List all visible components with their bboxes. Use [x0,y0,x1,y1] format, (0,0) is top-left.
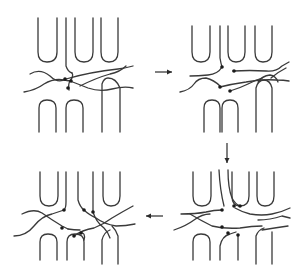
arrow-right-icon [155,70,172,75]
strand-line [256,80,272,132]
junction-dot [232,69,236,73]
junction-dot [69,79,73,83]
rearrangement-diagram [0,0,303,278]
strand-line [192,26,210,62]
strand-line [181,210,222,214]
strand-line [64,172,66,210]
panels-group [14,18,290,264]
junction-dot [238,204,242,208]
strand-line [40,234,57,260]
strand-line [180,78,220,92]
junction-dot [91,210,95,214]
strand-line [232,172,249,206]
strand-line [255,26,272,62]
strand-line [262,226,288,230]
panel-top-left [24,18,133,132]
junction-dot [60,226,64,230]
strand-line [66,18,72,73]
strand-line [190,67,222,76]
junction-dot [218,85,222,89]
strand-line [257,172,274,206]
strand-line [193,234,210,260]
strand-line [112,226,118,264]
strand-line [220,232,236,260]
junction-dot [62,208,66,212]
strand-line [40,172,58,206]
strand-line [38,18,57,62]
junction-dot [228,89,232,93]
junction-dot [66,86,70,90]
strand-line [219,170,224,206]
strand-line [102,78,120,132]
arrow-down-icon [225,143,230,163]
junction-dot [226,231,230,235]
junction-dot [63,77,67,81]
junction-dot [72,234,76,238]
strand-line [256,228,264,264]
strand-line [66,100,83,132]
strand-line [68,229,80,230]
strand-line [30,66,133,81]
strand-line [220,26,222,67]
junction-dot [220,225,224,229]
strand-line [103,172,120,206]
strand-line [204,100,220,132]
panel-bottom-right [174,170,290,264]
panel-bottom-left [14,172,135,264]
strand-line [67,234,84,260]
junction-dot [232,204,236,208]
arrow-left-icon [146,214,163,219]
strand-line [258,216,290,220]
arrows-group [146,70,230,219]
strand-line [78,172,84,210]
diagram-canvas [0,0,303,278]
strand-line [193,172,211,206]
junction-dot [82,208,86,212]
strand-line [39,100,56,132]
panel-top-right [180,26,289,132]
strand-line [233,62,289,71]
junction-dot [220,208,224,212]
strand-line [228,170,240,206]
junction-dot [236,233,240,237]
strand-line [228,26,245,62]
strand-line [101,18,118,62]
strand-line [75,18,93,62]
junction-dot [220,65,224,69]
strand-line [235,208,290,215]
strand-line [222,100,238,132]
strand-line [22,211,68,229]
junction-dot [79,231,83,235]
